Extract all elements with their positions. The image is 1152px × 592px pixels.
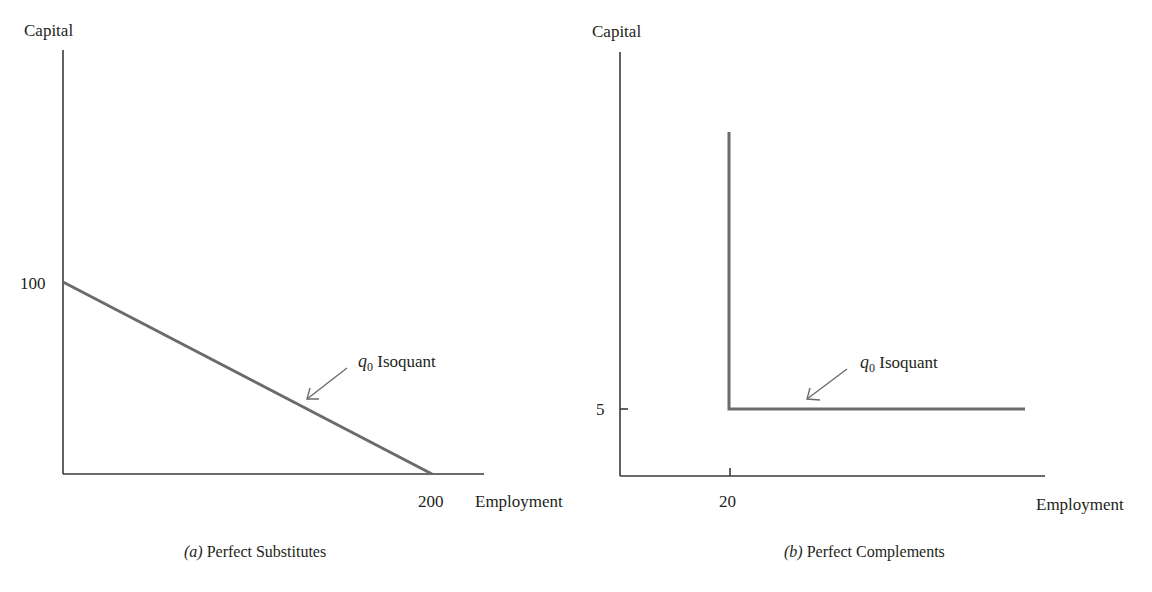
panel-a-isoquant-label: q0 Isoquant: [358, 351, 436, 374]
panel-a-isoquant-line: [63, 282, 432, 474]
panel-a-perfect-substitutes: Capital 100 200 Employment q0 Isoquant (…: [20, 21, 563, 561]
panel-b-x-axis-label: Employment: [1036, 495, 1124, 514]
panel-b-caption: (b) Perfect Complements: [784, 543, 945, 561]
panel-b-y-tick-label: 5: [596, 400, 605, 419]
panel-a-x-axis-label: Employment: [475, 492, 563, 511]
panel-a-y-axis-label: Capital: [24, 21, 73, 40]
panel-b-y-axis-label: Capital: [592, 22, 641, 41]
panel-a-x-tick-label: 200: [418, 492, 444, 511]
panel-b-isoquant-arrow-icon: [807, 369, 847, 400]
panel-b-isoquant-label: q0 Isoquant: [860, 352, 938, 375]
panel-b-perfect-complements: Capital 5 20 Employment q0 Isoquant (b) …: [592, 22, 1124, 561]
panel-b-x-tick-label: 20: [719, 492, 736, 511]
panel-a-y-tick-label: 100: [20, 274, 46, 293]
figure-canvas: Capital 100 200 Employment q0 Isoquant (…: [0, 0, 1152, 592]
panel-a-isoquant-arrow-icon: [307, 368, 347, 399]
panel-a-caption: (a) Perfect Substitutes: [184, 543, 326, 561]
